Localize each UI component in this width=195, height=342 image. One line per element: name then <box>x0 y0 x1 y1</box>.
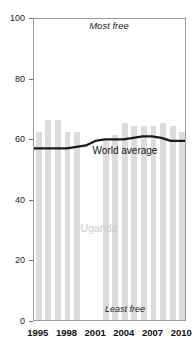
x-tick-label-2010: 2010 <box>171 327 192 338</box>
x-tick-label-1998: 1998 <box>56 327 77 338</box>
y-tick-label-40: 40 <box>15 195 25 205</box>
annotation-world-average: World average <box>93 145 158 156</box>
y-tick-label-20: 20 <box>15 255 25 265</box>
x-tick-label-2007: 2007 <box>142 327 163 338</box>
plot-area <box>33 18 186 321</box>
x-axis: 199519982001200420072010 <box>0 322 195 342</box>
cropped-title-descender <box>86 0 96 8</box>
y-tick-label-80: 80 <box>15 74 25 84</box>
annotation-most-free: Most free <box>89 20 129 31</box>
x-tick-label-1995: 1995 <box>27 327 48 338</box>
y-tick-label-60: 60 <box>15 134 25 144</box>
line-series-world-average <box>34 19 185 320</box>
x-tick-label-2001: 2001 <box>85 327 106 338</box>
x-tick-label-2004: 2004 <box>113 327 134 338</box>
chart-container: 020406080100 199519982001200420072010 Mo… <box>0 0 195 342</box>
annotation-least-free: Least free <box>105 304 145 314</box>
y-tick-label-100: 100 <box>10 13 25 23</box>
y-axis: 020406080100 <box>0 0 33 342</box>
annotation-uganda: Uganda <box>81 222 118 234</box>
